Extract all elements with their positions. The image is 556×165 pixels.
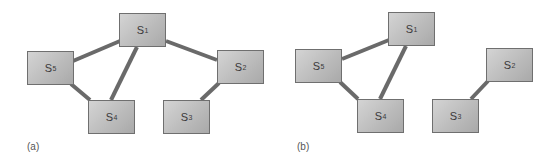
node-s4: S4 bbox=[357, 99, 404, 133]
node-s1: S1 bbox=[119, 13, 166, 47]
edge-s1-s4 bbox=[380, 46, 406, 99]
node-s1: S1 bbox=[388, 12, 435, 46]
node-s5: S5 bbox=[295, 49, 342, 83]
node-s3: S3 bbox=[163, 100, 210, 134]
edge-s2-s3 bbox=[201, 83, 219, 100]
node-s3: S3 bbox=[432, 99, 479, 133]
edge-s2-s3 bbox=[471, 81, 488, 99]
edge-s1-s2 bbox=[166, 41, 217, 60]
edge-s5-s4 bbox=[340, 82, 358, 99]
edge-s5-s4 bbox=[71, 84, 90, 100]
edge-s1-s5 bbox=[342, 40, 389, 59]
panel-label-a: (a) bbox=[27, 141, 39, 152]
node-s4: S4 bbox=[88, 100, 135, 134]
panel-a: S1 S2 S3 S4 S5 (a) bbox=[0, 0, 278, 165]
edge-s1-s4 bbox=[111, 47, 137, 100]
node-s2: S2 bbox=[217, 50, 264, 84]
panel-b: S1 S2 S3 S4 S5 (b) bbox=[278, 0, 556, 165]
panel-label-b: (b) bbox=[297, 141, 309, 152]
node-s2: S2 bbox=[486, 48, 533, 82]
node-s5: S5 bbox=[27, 51, 74, 85]
edge-s1-s5 bbox=[73, 41, 120, 61]
